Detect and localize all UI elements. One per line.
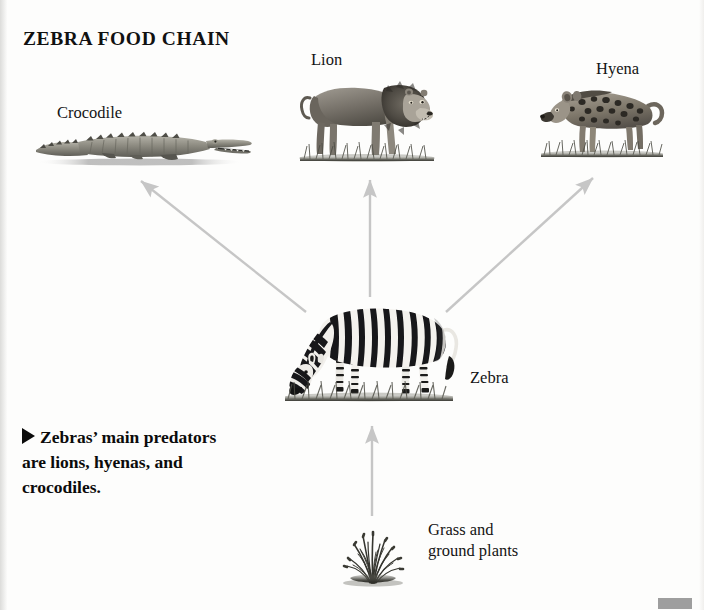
hyena-illustration [538,82,668,160]
food-chain-page: ZEBRA FOOD CHAIN [0,0,704,610]
label-grass-line1: Grass and [428,519,518,540]
corner-mark [658,598,692,609]
caption-text: Zebras’ main predators are lions, hyenas… [22,427,216,497]
label-grass: Grass and ground plants [428,519,518,561]
zebra-illustration [276,298,462,406]
label-zebra: Zebra [470,368,508,388]
grass-tuft-illustration [332,526,414,588]
triangle-right-icon [22,428,35,444]
caption-block: Zebras’ main predators are lions, hyenas… [22,425,237,500]
lion-illustration [296,68,438,163]
crocodile-illustration [30,122,256,168]
label-grass-line2: ground plants [428,540,518,561]
label-lion: Lion [311,50,342,70]
label-crocodile: Crocodile [57,103,122,123]
arrow-zebra-to-crocodile [141,181,306,312]
label-hyena: Hyena [596,59,639,79]
arrow-zebra-to-hyena [446,178,593,312]
